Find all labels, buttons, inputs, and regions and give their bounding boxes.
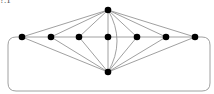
graph-node-top xyxy=(105,7,112,14)
graph-edge xyxy=(108,10,137,37)
graph-node-r7 xyxy=(192,34,199,41)
graph-node-r4 xyxy=(105,34,112,41)
graph-edge xyxy=(79,37,108,72)
graph-edge xyxy=(108,37,137,72)
graph-node-bottom xyxy=(105,69,112,76)
graph-node-r1 xyxy=(19,34,26,41)
outer-loop-edge xyxy=(8,37,210,91)
graph-edge xyxy=(51,37,108,72)
graph-edge xyxy=(22,10,108,37)
graph-edge xyxy=(79,10,108,37)
graph-edge xyxy=(108,10,195,37)
graph-edge xyxy=(22,37,108,72)
graph-edge xyxy=(51,10,108,37)
graph-node-r2 xyxy=(48,34,55,41)
graph-edge xyxy=(108,37,195,72)
graph-node-r3 xyxy=(76,34,83,41)
graph-diagram xyxy=(0,0,214,94)
graph-node-r5 xyxy=(134,34,141,41)
graph-node-r6 xyxy=(163,34,170,41)
